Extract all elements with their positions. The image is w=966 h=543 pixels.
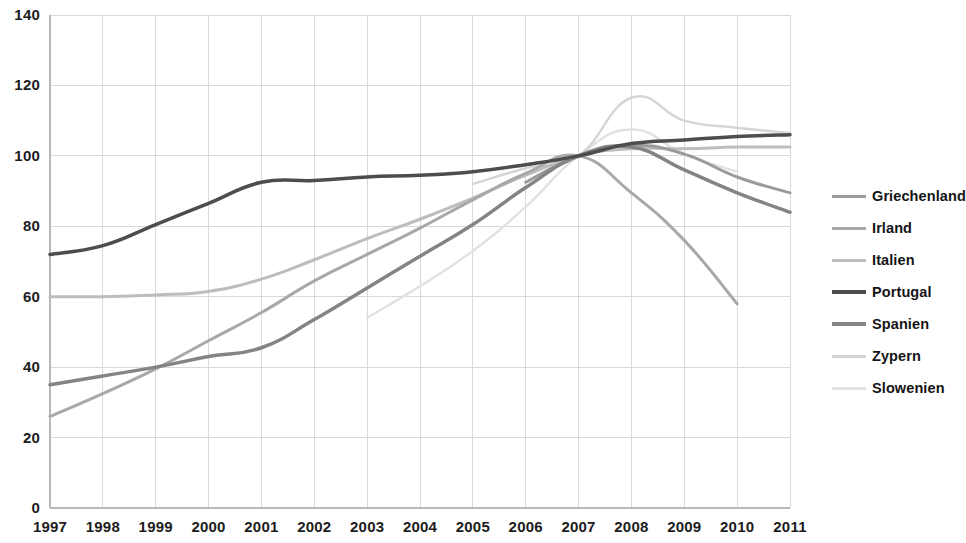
y-axis-tick-label: 80 [0, 217, 40, 234]
x-axis-tick-label: 1998 [73, 518, 133, 535]
x-axis-tick-label: 1999 [126, 518, 186, 535]
legend-swatch [832, 227, 866, 230]
x-axis-tick-label: 2001 [231, 518, 291, 535]
x-axis-tick-label: 2004 [390, 518, 450, 535]
series-line [50, 155, 737, 416]
x-axis-tick-label: 2010 [707, 518, 767, 535]
legend-item[interactable]: Spanien [832, 308, 964, 340]
y-axis-tick-label: 40 [0, 358, 40, 375]
legend-item[interactable]: Irland [832, 212, 964, 244]
legend-item[interactable]: Italien [832, 244, 964, 276]
x-axis-tick-label: 2008 [601, 518, 661, 535]
y-axis-tick-label: 60 [0, 288, 40, 305]
x-axis-tick-label: 2009 [654, 518, 714, 535]
legend-swatch [832, 355, 866, 358]
legend-item-label: Slowenien [872, 380, 945, 396]
y-axis-tick-label: 100 [0, 147, 40, 164]
y-axis-tick-label: 0 [0, 499, 40, 516]
legend-item[interactable]: Griechenland [832, 180, 964, 212]
x-axis-tick-label: 2003 [337, 518, 397, 535]
x-axis-tick-label: 2000 [179, 518, 239, 535]
y-axis-tick-label: 120 [0, 76, 40, 93]
x-axis-tick-label: 2005 [443, 518, 503, 535]
legend-item-label: Spanien [872, 316, 929, 332]
y-axis-tick-label: 140 [0, 6, 40, 23]
legend-swatch [832, 322, 866, 326]
legend-swatch [832, 387, 866, 390]
legend-swatch [832, 259, 866, 262]
legend-swatch [832, 290, 866, 294]
legend-item-label: Griechenland [872, 188, 966, 204]
x-axis-tick-label: 2007 [549, 518, 609, 535]
x-axis-tick-label: 1997 [20, 518, 80, 535]
x-axis-tick-label: 2006 [496, 518, 556, 535]
x-axis-tick-label: 2002 [284, 518, 344, 535]
legend-swatch [832, 195, 866, 198]
legend-item[interactable]: Portugal [832, 276, 964, 308]
legend-item[interactable]: Slowenien [832, 372, 964, 404]
series-line [526, 145, 790, 193]
legend-item[interactable]: Zypern [832, 340, 964, 372]
x-axis-tick-label: 2011 [760, 518, 820, 535]
legend-item-label: Zypern [872, 348, 921, 364]
legend-item-label: Italien [872, 252, 915, 268]
chart-legend: GriechenlandIrlandItalienPortugalSpanien… [832, 180, 964, 404]
series-line [367, 129, 737, 317]
legend-item-label: Portugal [872, 284, 932, 300]
legend-item-label: Irland [872, 220, 912, 236]
y-axis-tick-label: 20 [0, 429, 40, 446]
